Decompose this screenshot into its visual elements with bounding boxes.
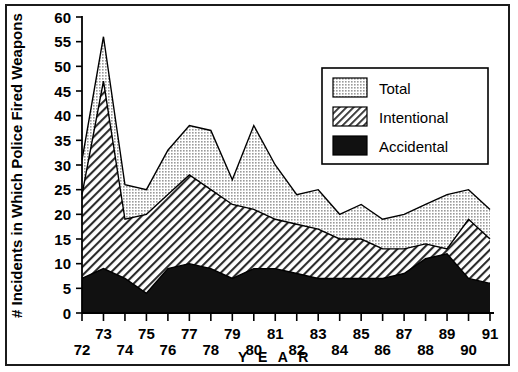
y-tick-label: 45 — [54, 83, 71, 100]
y-tick-label: 15 — [54, 231, 71, 248]
y-tick-label: 60 — [54, 9, 71, 26]
x-tick-label: 74 — [117, 341, 134, 358]
x-tick-label: 87 — [396, 325, 413, 342]
x-tick-label: 79 — [224, 325, 241, 342]
y-tick-label: 55 — [54, 33, 71, 50]
x-tick-label: 91 — [482, 325, 499, 342]
x-tick-label: 85 — [353, 325, 370, 342]
x-tick-label: 77 — [181, 325, 198, 342]
x-tick-label: 86 — [374, 341, 391, 358]
legend-swatch-total — [333, 78, 367, 97]
y-tick-label: 40 — [54, 107, 71, 124]
x-tick-label: 76 — [160, 341, 177, 358]
stacked-area-chart: 7273747576777879808182838485868788899091… — [0, 0, 518, 372]
legend-label-total: Total — [379, 80, 411, 97]
y-tick-label: 30 — [54, 157, 71, 174]
y-tick-label: 5 — [63, 280, 71, 297]
legend-label-intentional: Intentional — [379, 109, 448, 126]
legend-swatch-accidental — [333, 136, 367, 155]
y-tick-label: 10 — [54, 255, 71, 272]
x-tick-label: 81 — [267, 325, 284, 342]
x-tick-label: 72 — [74, 341, 91, 358]
x-tick-label: 83 — [310, 325, 327, 342]
x-axis-title: Y E A R — [238, 349, 312, 365]
y-tick-label: 0 — [63, 305, 71, 322]
chart-legend: Total Intentional Accidental — [322, 68, 488, 164]
legend-swatch-intentional — [333, 107, 367, 126]
x-tick-label: 90 — [460, 341, 477, 358]
y-tick-label: 25 — [54, 181, 71, 198]
y-tick-label: 50 — [54, 58, 71, 75]
x-tick-label: 84 — [331, 341, 348, 358]
y-tick-label: 35 — [54, 132, 71, 149]
chart-page: 7273747576777879808182838485868788899091… — [0, 0, 518, 372]
y-tick-label: 20 — [54, 206, 71, 223]
x-tick-label: 88 — [417, 341, 434, 358]
x-tick-label: 78 — [202, 341, 219, 358]
x-tick-label: 89 — [439, 325, 456, 342]
y-tick-labels: 051015202530354045505560 — [54, 9, 71, 322]
legend-label-accidental: Accidental — [379, 138, 448, 155]
x-tick-label: 75 — [138, 325, 155, 342]
x-tick-label: 73 — [95, 325, 112, 342]
y-axis-title: # Incidents in Which Police Fired Weapon… — [8, 13, 25, 318]
